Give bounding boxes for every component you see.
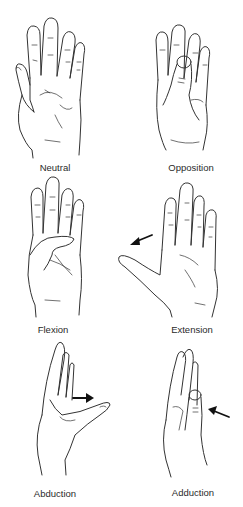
hand-flexion-illustration [0, 175, 121, 325]
panel-neutral: Neutral [0, 0, 121, 175]
panel-flexion: Flexion [0, 175, 121, 335]
panel-abduction: Abduction [0, 335, 121, 507]
hand-adduction-illustration [121, 335, 243, 485]
label-adduction: Adduction [172, 487, 214, 498]
panel-extension: Extension [110, 175, 243, 335]
label-extension: Extension [171, 324, 213, 335]
panel-opposition: Opposition [121, 0, 243, 175]
label-abduction: Abduction [34, 488, 76, 499]
label-neutral: Neutral [40, 162, 71, 173]
hand-opposition-illustration [121, 0, 243, 160]
panel-adduction: Adduction [121, 335, 243, 507]
label-opposition: Opposition [168, 162, 213, 173]
hand-abduction-illustration [0, 335, 121, 485]
hand-neutral-illustration [0, 0, 121, 160]
hand-extension-illustration [110, 175, 243, 325]
label-flexion: Flexion [38, 324, 69, 335]
